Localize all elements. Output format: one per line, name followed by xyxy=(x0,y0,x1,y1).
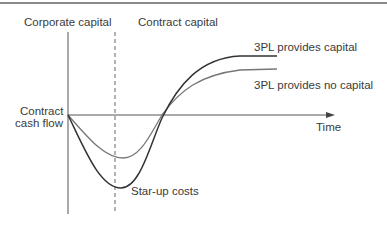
y-axis-label-line2: cash flow xyxy=(14,117,63,129)
region-label-contract-capital: Contract capital xyxy=(138,16,218,28)
legend-label-no-capital: 3PL provides no capital xyxy=(254,79,373,91)
x-axis-label-time: Time xyxy=(316,121,341,133)
y-axis-label-line1: Contract xyxy=(20,105,63,117)
x-axis-arrow-icon xyxy=(326,112,335,118)
legend-label-capital: 3PL provides capital xyxy=(254,41,357,53)
curve-capital xyxy=(68,56,277,188)
annotation-startup-costs: Star-up costs xyxy=(131,185,199,197)
curve-no-capital xyxy=(68,69,277,158)
region-label-corporate-capital: Corporate capital xyxy=(24,16,112,28)
